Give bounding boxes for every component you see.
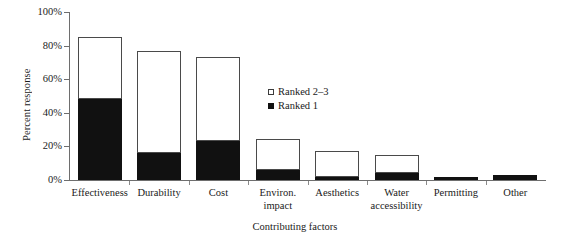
stacked-bar-chart-figure: Percent response 0%20%40%60%80%100% Effe… (0, 0, 566, 239)
x-axis-category-label: Cost (189, 187, 248, 200)
bar (315, 151, 359, 180)
y-axis-tick (64, 180, 69, 181)
bar-segment-ranked-2-3 (196, 57, 240, 142)
x-axis-category-label: Durability (129, 187, 188, 200)
bar-segment-ranked-1 (137, 153, 181, 180)
y-axis-tick-label: 0% (22, 175, 62, 185)
bar (137, 51, 181, 180)
x-axis-tick (248, 181, 249, 185)
x-axis-tick (426, 181, 427, 185)
x-axis-category-label: Other (486, 187, 545, 200)
bar-segment-ranked-2-3 (137, 51, 181, 153)
legend-item: Ranked 2–3 (268, 85, 328, 99)
y-axis-tick (64, 79, 69, 80)
bar-segment-ranked-2-3 (375, 155, 419, 173)
bar-segment-ranked-2-3 (256, 139, 300, 170)
x-axis-category-label: Permitting (426, 187, 485, 200)
filled-square-icon (268, 103, 274, 109)
x-axis-category-label: Environ. impact (248, 187, 307, 212)
y-axis-tick-label: 40% (22, 108, 62, 118)
y-axis-tick (64, 46, 69, 47)
x-axis-tick (486, 181, 487, 185)
x-axis-title: Contributing factors (229, 221, 338, 232)
bar-segment-ranked-1 (315, 177, 359, 180)
x-axis-tick (189, 181, 190, 185)
y-axis-title: Percent response (20, 55, 34, 155)
legend-label: Ranked 1 (278, 99, 318, 113)
x-axis-category-label: Water accessibility (367, 187, 426, 212)
legend-item: Ranked 1 (268, 99, 328, 113)
x-axis-title-wrapper: Contributing factors (0, 221, 566, 232)
x-axis-category-label: Aesthetics (308, 187, 367, 200)
x-axis-category-label: Effectiveness (70, 187, 129, 200)
bar-segment-ranked-1 (434, 177, 478, 180)
x-axis-tick (367, 181, 368, 185)
bar (256, 139, 300, 180)
open-square-icon (268, 89, 274, 95)
bar (493, 175, 537, 180)
bar-segment-ranked-2-3 (315, 151, 359, 176)
y-axis-tick-label: 20% (22, 141, 62, 151)
bar-segment-ranked-1 (375, 173, 419, 180)
bar (78, 37, 122, 180)
legend-label: Ranked 2–3 (278, 85, 328, 99)
bar-segment-ranked-2-3 (78, 37, 122, 99)
bar (434, 177, 478, 180)
y-axis-tick-label: 100% (22, 7, 62, 17)
y-axis-tick (64, 12, 69, 13)
bar (375, 155, 419, 180)
chart-legend: Ranked 2–3 Ranked 1 (268, 85, 328, 113)
bar-segment-ranked-1 (256, 170, 300, 180)
y-axis-tick-label: 80% (22, 41, 62, 51)
x-axis-tick (308, 181, 309, 185)
bar-segment-ranked-1 (78, 99, 122, 180)
y-axis-tick-label: 60% (22, 74, 62, 84)
bar (196, 57, 240, 180)
bar-segment-ranked-1 (493, 175, 537, 180)
bar-segment-ranked-1 (196, 141, 240, 180)
x-axis-tick (129, 181, 130, 185)
y-axis-tick (64, 146, 69, 147)
y-axis-tick (64, 113, 69, 114)
y-axis-line (69, 12, 70, 181)
